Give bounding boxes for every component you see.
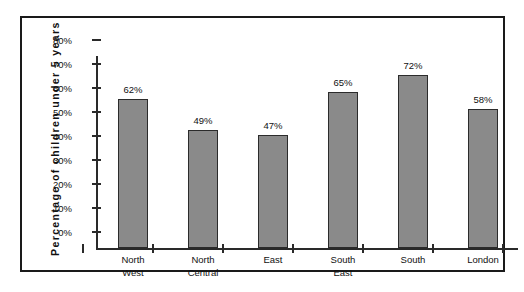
y-axis-tick-label: 70% [40, 59, 72, 70]
bar [468, 109, 498, 248]
x-axis-category-label-line: West [98, 267, 168, 280]
bar-value-label: 72% [403, 60, 422, 71]
y-axis-tick-label: 80% [40, 35, 72, 46]
bar [398, 75, 428, 248]
y-axis-tick-mark [92, 39, 101, 41]
bar-value-label: 65% [333, 77, 352, 88]
x-axis-category-label: South [378, 254, 448, 267]
x-axis-category-label-line: South [308, 254, 378, 267]
x-axis-category-label-line: East [308, 267, 378, 280]
x-axis-category-label-line: East [238, 254, 308, 267]
x-axis-category-label-line: London [448, 254, 518, 267]
x-axis-category-label: NorthWest [98, 254, 168, 279]
chart-frame: Percentage of children under 5 years 0%1… [20, 16, 505, 272]
bar-group: 62% [98, 56, 168, 248]
bar-group: 49% [168, 56, 238, 248]
bar [328, 92, 358, 248]
y-axis-tick-label: 40% [40, 131, 72, 142]
x-axis-category-label-line: North [168, 254, 238, 267]
x-axis-category-label-line: Central [168, 267, 238, 280]
bar [258, 135, 288, 248]
x-axis-tick-mark [82, 244, 84, 253]
bar-value-label: 47% [263, 120, 282, 131]
bar-value-label: 58% [473, 94, 492, 105]
bar [118, 99, 148, 248]
x-axis-category-label: SouthEast [308, 254, 378, 279]
x-axis-category-labels: NorthWestNorthCentralEastSouthEastSouthL… [98, 254, 518, 286]
x-axis-category-label-line: North [98, 254, 168, 267]
bar-group: 72% [378, 56, 448, 248]
x-axis-category-label: NorthCentral [168, 254, 238, 279]
bar-value-label: 62% [123, 84, 142, 95]
bar-group: 47% [238, 56, 308, 248]
bar [188, 130, 218, 248]
bar-value-label: 49% [193, 115, 212, 126]
y-axis-tick-label: 0% [40, 227, 72, 238]
y-axis-tick-label: 60% [40, 83, 72, 94]
x-axis-category-label: East [238, 254, 308, 267]
y-axis-tick-label: 50% [40, 107, 72, 118]
bar-group: 65% [308, 56, 378, 248]
x-axis-category-label-line: South [378, 254, 448, 267]
y-axis-tick-labels: 0%10%20%30%40%50%60%70%80% [40, 18, 72, 238]
y-axis-tick-label: 10% [40, 203, 72, 214]
bar-group: 58% [448, 56, 518, 248]
y-axis-tick-label: 30% [40, 155, 72, 166]
x-axis-category-label: London [448, 254, 518, 267]
plot-area: 62%49%47%65%72%58% [98, 56, 518, 248]
x-axis-line [96, 248, 518, 250]
y-axis-tick-label: 20% [40, 179, 72, 190]
